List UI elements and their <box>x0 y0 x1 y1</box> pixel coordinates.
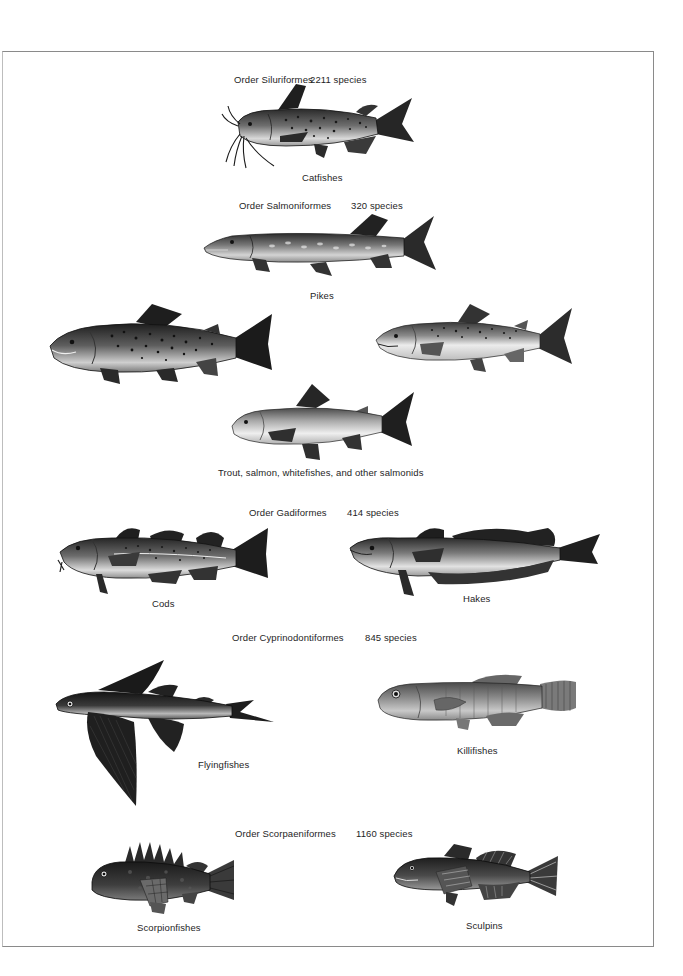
scorpionfish-illustration <box>90 838 236 914</box>
page-frame <box>2 51 654 947</box>
group-label-scorpionfishes: Scorpionfishes <box>137 922 201 933</box>
catfish-illustration <box>216 80 416 172</box>
salmon-illustration <box>374 300 574 374</box>
order-label-cyprinodontiformes: Order Cyprinodontiformes <box>232 632 344 643</box>
species-count-scorpaeniformes: 1160 species <box>356 828 412 839</box>
sculpin-illustration <box>392 842 560 908</box>
pike-illustration <box>202 210 438 280</box>
whitefish-illustration <box>230 382 416 462</box>
trout-illustration <box>46 300 274 386</box>
cod-illustration <box>56 522 272 598</box>
order-label-gadiformes: Order Gadiformes <box>249 507 327 518</box>
group-label-salmonids: Trout, salmon, whitefishes, and other sa… <box>218 467 424 478</box>
killifish-illustration <box>376 672 578 736</box>
group-label-cods: Cods <box>152 598 175 609</box>
order-label-scorpaeniformes: Order Scorpaeniformes <box>235 828 336 839</box>
group-label-flyingfishes: Flyingfishes <box>198 759 249 770</box>
species-count-cyprinodontiformes: 845 species <box>365 632 417 643</box>
group-label-catfishes: Catfishes <box>302 172 343 183</box>
group-label-killifishes: Killifishes <box>457 745 498 756</box>
flyingfish-illustration <box>54 660 276 806</box>
species-count-gadiformes: 414 species <box>347 507 399 518</box>
group-label-sculpins: Sculpins <box>466 920 503 931</box>
hake-illustration <box>348 524 602 600</box>
group-label-pikes: Pikes <box>310 290 334 301</box>
group-label-hakes: Hakes <box>463 593 490 604</box>
